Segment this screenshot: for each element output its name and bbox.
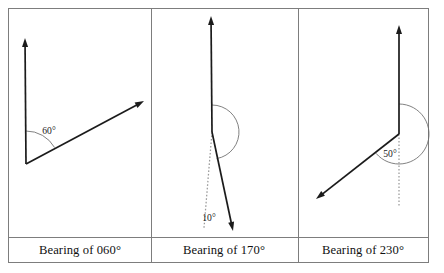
bearings-diagram-canvas: 60° Bearing of 060° 10° Bearing of 170° … [0, 0, 444, 273]
panel-bearing-060: 60° Bearing of 060° [22, 38, 144, 257]
table-outer-border [9, 9, 429, 263]
north-ray [211, 22, 212, 132]
bearing-ray [320, 134, 399, 196]
angle-label: 50° [383, 148, 397, 159]
north-arrowhead-icon [208, 16, 214, 25]
bearing-arrowhead-icon [135, 101, 144, 108]
panel-bearing-230: 50° Bearing of 230° [316, 25, 429, 257]
north-arrowhead-icon [22, 38, 28, 47]
panel-caption: Bearing of 230° [322, 243, 404, 257]
panel-caption: Bearing of 060° [39, 243, 121, 257]
bearings-figure: 60° Bearing of 060° 10° Bearing of 170° … [0, 0, 444, 273]
north-arrowhead-icon [396, 25, 402, 34]
panel-bearing-170: 10° Bearing of 170° [183, 16, 265, 257]
table-grid [9, 9, 429, 263]
angle-label: 10° [202, 212, 216, 223]
north-ray [25, 44, 26, 164]
bearing-arrowhead-icon [228, 222, 234, 231]
angle-label: 60° [42, 125, 56, 136]
panel-caption: Bearing of 170° [183, 243, 265, 257]
